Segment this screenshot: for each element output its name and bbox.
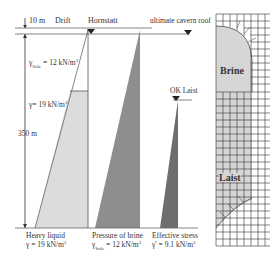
effective-stress-area: [160, 100, 178, 228]
depth-10m-label: 10 m: [29, 16, 45, 25]
hornstatt-label: Hornstatt: [88, 16, 118, 25]
heavy-liquid-value: γ = 19 kN/m3: [26, 240, 66, 249]
effective-stress-title: Effective stress: [152, 231, 198, 240]
heavy-liquid-area: [35, 91, 88, 228]
depth-350m-label: 350 m: [18, 129, 37, 138]
arrow-head-icon: [23, 25, 27, 28]
brine-pressure-area: [95, 30, 140, 228]
brine-label: Brine: [220, 66, 244, 75]
gamma-heavy-label: γ= 19 kN/m3: [29, 100, 67, 109]
laist-label: Laist: [219, 173, 241, 182]
diagram-canvas: [0, 0, 279, 262]
heavy-liquid-title: Heavy liquid: [26, 231, 65, 240]
arrow-head-icon: [23, 224, 27, 228]
cavern-roof-label: ultimate cavern roof: [150, 16, 211, 25]
brine-value: γSole = 12 kN/m3: [92, 240, 141, 253]
brine-title: Pressure of brine: [92, 231, 143, 240]
effective-stress-value: γ' = 9.1 kN/m3: [152, 240, 195, 249]
drift-label: Drift: [55, 16, 71, 25]
gamma-brine-label: γSole = 12 kN/m3: [29, 58, 78, 71]
fe-mesh: [216, 14, 270, 246]
ok-laist-label: OK Laist: [170, 86, 198, 95]
arrow-head-icon: [23, 34, 27, 38]
